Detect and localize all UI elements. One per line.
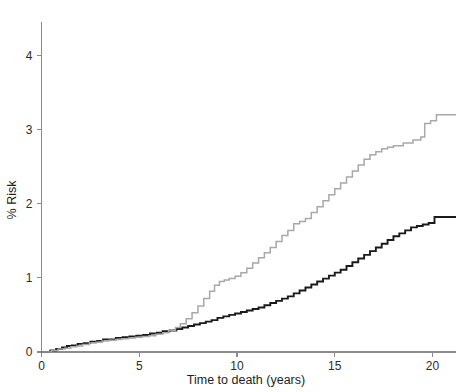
- x-tick-label-2: 10: [230, 359, 244, 373]
- x-tick-label-1: 5: [136, 359, 143, 373]
- y-axis-title: % Risk: [5, 180, 19, 220]
- y-tick-label-2: 2: [26, 197, 33, 211]
- series-grey-curve: [42, 115, 457, 352]
- series-group: [42, 115, 457, 352]
- y-tick-label-1: 1: [26, 271, 33, 285]
- axes-group: 0123405101520: [26, 22, 456, 373]
- x-tick-label-3: 15: [328, 359, 342, 373]
- y-tick-label-3: 3: [26, 123, 33, 137]
- y-tick-label-4: 4: [26, 49, 33, 63]
- cumulative-risk-plot: 0123405101520 % Risk Time to death (year…: [0, 0, 472, 392]
- x-tick-label-0: 0: [38, 359, 45, 373]
- x-tick-label-4: 20: [426, 359, 440, 373]
- chart-figure: 0123405101520 % Risk Time to death (year…: [0, 0, 472, 392]
- x-axis-title: Time to death (years): [187, 373, 305, 387]
- axis-labels-group: % Risk Time to death (years): [5, 180, 305, 387]
- series-black-curve: [42, 217, 457, 352]
- y-tick-label-0: 0: [26, 345, 33, 359]
